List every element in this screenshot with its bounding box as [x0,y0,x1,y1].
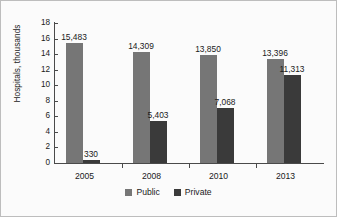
legend-swatch-icon [125,189,132,196]
bar-chart-figure: Hospitals, thousands 024681012141618 15,… [0,0,337,217]
plot-area: 15,48333014,3095,40313,8507,06813,39611,… [55,23,323,163]
bar-value-label-public-2010: 13,850 [195,44,221,54]
x-category-label-2013: 2013 [276,171,295,181]
bar-value-label-private-2005: 330 [84,149,98,159]
bar-value-label-private-2008: 5,403 [148,110,169,120]
bar-value-label-public-2008: 14,309 [128,41,154,51]
legend-label: Public [136,187,159,197]
legend-item-public[interactable]: Public [125,187,159,197]
y-tick-0: 0 [54,163,59,164]
y-tick-label: 14 [41,49,50,58]
bar-public-2010 [200,55,217,163]
legend-item-private[interactable]: Private [174,187,212,197]
y-tick-label: 4 [45,127,50,136]
x-tick-mark [122,163,123,168]
y-tick-mark [54,163,58,164]
x-category-label-2005: 2005 [75,171,94,181]
bar-value-label-public-2013: 13,396 [262,48,288,58]
x-category-label-2008: 2008 [142,171,161,181]
bar-public-2008 [133,52,150,163]
bar-value-label-public-2005: 15,483 [61,32,87,42]
x-category-label-2010: 2010 [209,171,228,181]
y-tick-label: 2 [45,142,50,151]
y-tick-label: 10 [41,80,50,89]
y-tick-label: 8 [45,96,50,105]
y-tick-label: 0 [45,158,50,167]
bar-value-label-private-2013: 11,313 [280,64,305,74]
legend-swatch-icon [174,189,181,196]
bar-private-2008 [150,121,167,163]
x-tick-mark [189,163,190,168]
bar-private-2013 [284,75,301,163]
y-tick-label: 16 [41,34,50,43]
y-tick-label: 6 [45,111,50,120]
y-tick-label: 12 [41,65,50,74]
x-tick-mark [256,163,257,168]
bar-public-2005 [66,43,83,163]
chart-legend: PublicPrivate [1,187,336,197]
bar-public-2013 [267,59,284,163]
y-axis-title: Hospitals, thousands [13,4,22,124]
bar-value-label-private-2010: 7,068 [215,97,236,107]
y-tick-label: 18 [41,18,50,27]
bar-private-2005 [83,160,100,163]
bar-private-2010 [217,108,234,163]
legend-label: Private [185,187,212,197]
